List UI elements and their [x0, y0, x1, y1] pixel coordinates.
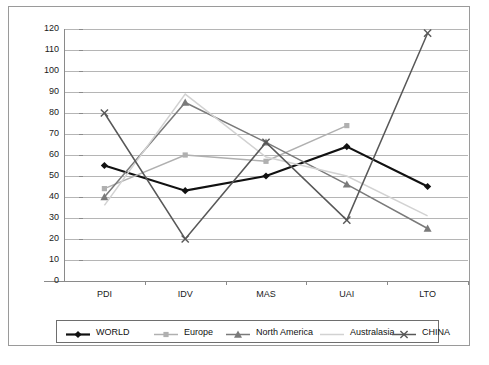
y-tick-mark [79, 71, 83, 72]
y-axis-ticks: 1201101009080706050403020100 [29, 7, 59, 365]
chart-frame: 1201101009080706050403020100 PDIIDVMASUA… [8, 6, 470, 346]
legend-label: North America [256, 327, 313, 337]
y-tick-label: 100 [44, 66, 59, 75]
y-tick-label: 60 [49, 150, 59, 159]
x-tick-label-uai: UAI [317, 289, 377, 299]
y-tick-label: 80 [49, 108, 59, 117]
y-tick-mark [79, 239, 83, 240]
y-tick-mark [79, 92, 83, 93]
plot-area [64, 29, 468, 281]
x-axis-line [44, 281, 468, 282]
y-tick-mark [79, 176, 83, 177]
gridline [64, 92, 468, 93]
gridline [64, 260, 468, 261]
x-tick-label-pdi: PDI [74, 289, 134, 299]
y-tick-label: 90 [49, 87, 59, 96]
x-tick-mark [145, 281, 146, 285]
legend-label: Australasia [350, 327, 395, 337]
x-tick-mark [226, 281, 227, 285]
gridline [64, 50, 468, 51]
gridline [64, 239, 468, 240]
chart-legend: WORLDEuropeNorth AmericaAustralasiaCHINA [56, 320, 439, 343]
gridline [64, 29, 468, 30]
y-tick-label: 40 [49, 192, 59, 201]
x-tick-label-idv: IDV [155, 289, 215, 299]
y-tick-mark [79, 113, 83, 114]
x-tick-mark [387, 281, 388, 285]
gridline [64, 176, 468, 177]
y-tick-mark [79, 50, 83, 51]
y-tick-mark [79, 29, 83, 30]
y-tick-label: 10 [49, 255, 59, 264]
x-tick-mark [468, 281, 469, 285]
x-tick-mark [306, 281, 307, 285]
y-tick-mark [79, 260, 83, 261]
y-tick-label: 120 [44, 24, 59, 33]
y-tick-label: 50 [49, 171, 59, 180]
legend-entry-world[interactable]: WORLD [65, 321, 130, 342]
x-tick-label-lto: LTO [398, 289, 458, 299]
y-axis-line [64, 29, 65, 282]
y-tick-label: 110 [45, 45, 59, 54]
x-tick-label-mas: MAS [236, 289, 296, 299]
y-tick-mark [79, 134, 83, 135]
y-tick-label: 30 [49, 213, 59, 222]
legend-swatch-diamond-icon [65, 326, 91, 337]
legend-label: WORLD [96, 327, 130, 337]
legend-label: Europe [184, 327, 213, 337]
legend-entry-europe[interactable]: Europe [153, 321, 213, 342]
gridline [64, 155, 468, 156]
legend-swatch-cross-icon [391, 326, 417, 337]
y-tick-mark [79, 218, 83, 219]
y-tick-mark [79, 281, 83, 282]
legend-swatch-triangle-icon [225, 326, 251, 337]
gridline [64, 113, 468, 114]
gridline [64, 71, 468, 72]
y-tick-label: 0 [54, 276, 59, 285]
gridline [64, 134, 468, 135]
legend-swatch-none-icon [319, 326, 345, 337]
y-tick-mark [79, 155, 83, 156]
y-tick-label: 20 [49, 234, 59, 243]
legend-entry-north-america[interactable]: North America [225, 321, 313, 342]
y-tick-label: 70 [49, 129, 59, 138]
y-tick-mark [79, 197, 83, 198]
gridline [64, 197, 468, 198]
legend-entry-china[interactable]: CHINA [391, 321, 450, 342]
legend-entry-australasia[interactable]: Australasia [319, 321, 395, 342]
legend-label: CHINA [422, 327, 450, 337]
legend-swatch-square-icon [153, 326, 179, 337]
gridline [64, 218, 468, 219]
